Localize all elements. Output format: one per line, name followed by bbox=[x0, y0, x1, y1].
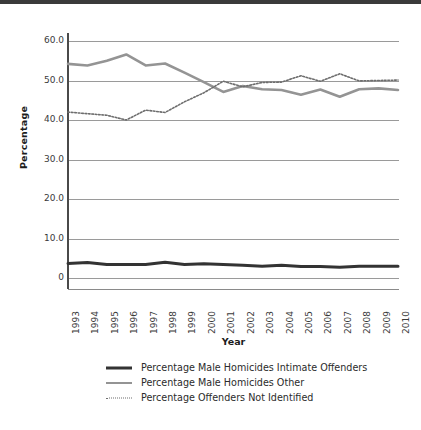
x-tick-label: 2002 bbox=[247, 292, 256, 334]
legend-item[interactable]: Percentage Offenders Not Identified bbox=[106, 390, 416, 405]
legend-label: Percentage Offenders Not Identified bbox=[141, 393, 313, 403]
x-tick-label: 2004 bbox=[286, 292, 295, 334]
x-tick-label: 1997 bbox=[150, 292, 159, 334]
x-tick-label: 1998 bbox=[169, 292, 178, 334]
x-tick-label: 1999 bbox=[188, 292, 197, 334]
legend-label: Percentage Male Homicides Other bbox=[141, 378, 304, 388]
line-dotted-icon bbox=[106, 392, 132, 404]
series-line bbox=[68, 54, 398, 96]
line-solid-dark-icon bbox=[106, 362, 132, 374]
chart-legend: Percentage Male Homicides Intimate Offen… bbox=[106, 360, 416, 405]
x-tick-label: 1996 bbox=[130, 292, 139, 334]
x-tick-label: 2010 bbox=[402, 292, 411, 334]
x-axis-title: Year bbox=[68, 336, 399, 347]
x-tick-label: 2009 bbox=[383, 292, 392, 334]
series-line bbox=[68, 74, 398, 120]
x-tick-label: 2006 bbox=[324, 292, 333, 334]
x-tick-label: 2001 bbox=[227, 292, 236, 334]
x-tick-label: 1993 bbox=[72, 292, 81, 334]
legend-item[interactable]: Percentage Male Homicides Other bbox=[106, 375, 416, 390]
x-tick-label: 1994 bbox=[91, 292, 100, 334]
x-tick-label: 2005 bbox=[305, 292, 314, 334]
x-tick-label: 1995 bbox=[111, 292, 120, 334]
series-line bbox=[68, 262, 398, 267]
x-tick-label: 2007 bbox=[344, 292, 353, 334]
line-solid-gray-icon bbox=[106, 377, 132, 389]
x-tick-label: 2003 bbox=[266, 292, 275, 334]
legend-item[interactable]: Percentage Male Homicides Intimate Offen… bbox=[106, 360, 416, 375]
legend-label: Percentage Male Homicides Intimate Offen… bbox=[141, 363, 367, 373]
x-tick-label: 2000 bbox=[208, 292, 217, 334]
x-axis-tick-labels: 1993199419951996199719981999200020012002… bbox=[68, 292, 399, 338]
x-tick-label: 2008 bbox=[363, 292, 372, 334]
line-chart-figure: Percentage 010.020.030.040.050.060.0 199… bbox=[0, 0, 421, 430]
